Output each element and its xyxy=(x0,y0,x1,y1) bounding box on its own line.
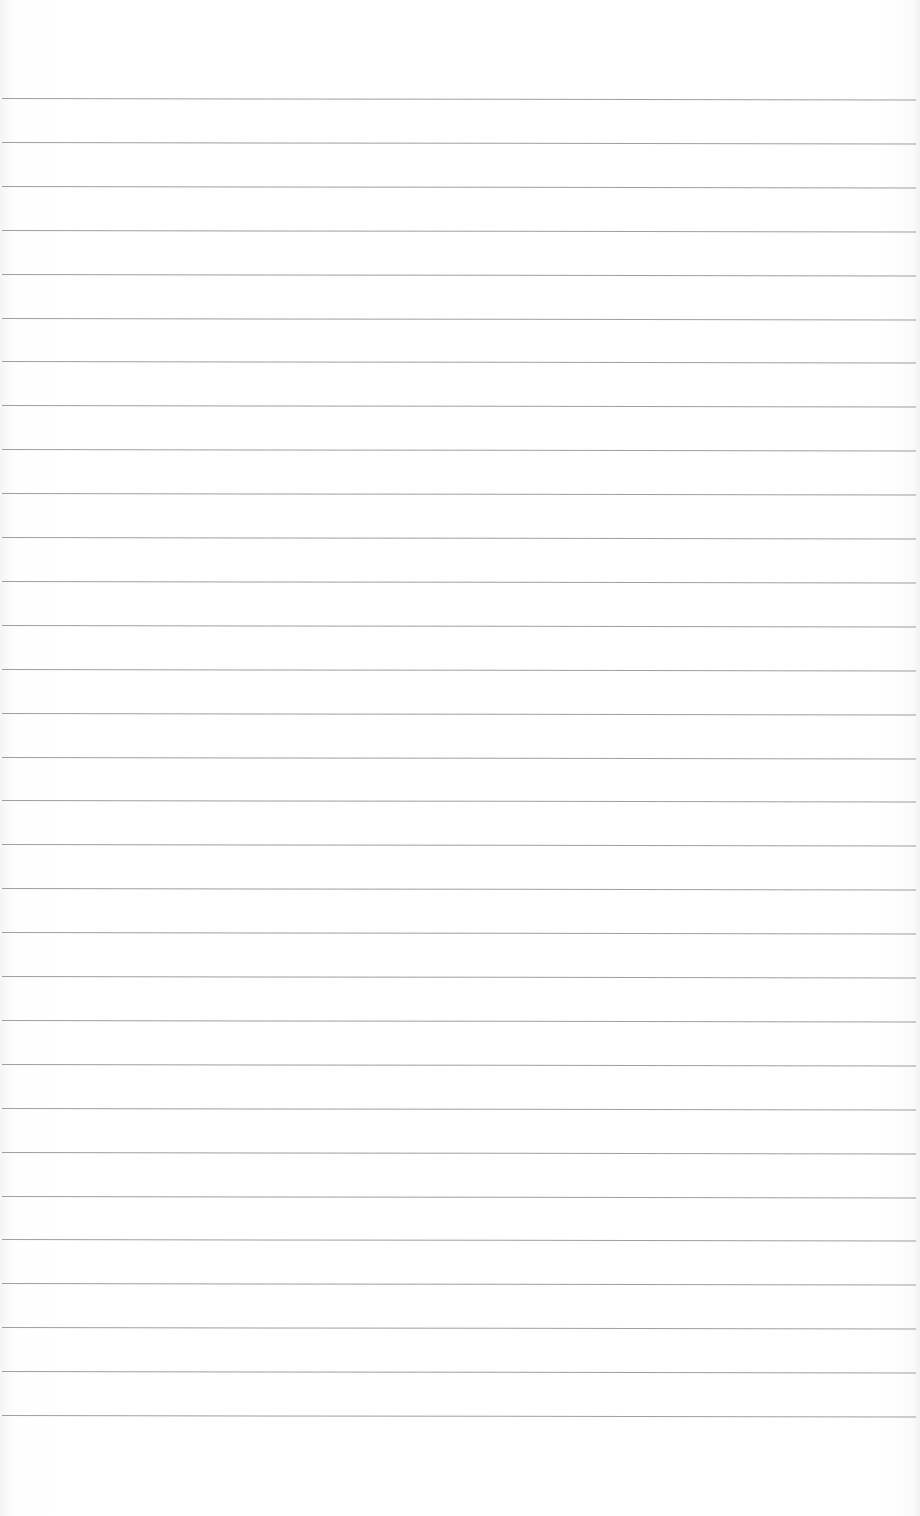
ruled-line xyxy=(2,1020,916,1022)
ruled-line xyxy=(2,449,916,451)
ruled-line xyxy=(2,1415,916,1417)
ruled-line xyxy=(2,186,916,188)
ruled-line xyxy=(2,1327,916,1329)
ruled-line xyxy=(2,625,916,627)
ruled-line xyxy=(2,932,916,934)
ruled-line xyxy=(2,1239,916,1241)
ruled-line xyxy=(2,361,916,363)
ruled-line xyxy=(2,405,916,407)
ruled-paper-sheet xyxy=(0,0,920,1516)
ruled-line xyxy=(2,669,916,671)
ruled-line xyxy=(2,1152,916,1154)
ruled-line xyxy=(2,493,916,495)
ruled-line xyxy=(2,1064,916,1066)
ruled-line xyxy=(2,581,916,583)
ruled-line xyxy=(2,318,916,320)
ruled-line xyxy=(2,800,916,802)
ruled-line xyxy=(2,844,916,846)
ruled-line xyxy=(2,1196,916,1198)
ruled-line xyxy=(2,1371,916,1373)
ruled-line xyxy=(2,1108,916,1110)
ruled-line xyxy=(2,274,916,276)
ruled-line xyxy=(2,888,916,890)
ruled-line xyxy=(2,713,916,715)
ruled-line xyxy=(2,230,916,232)
ruled-line xyxy=(2,537,916,539)
ruled-line xyxy=(2,1283,916,1285)
ruled-line xyxy=(2,98,916,100)
ruled-line xyxy=(2,976,916,978)
ruled-line xyxy=(2,757,916,759)
ruled-line xyxy=(2,142,916,144)
